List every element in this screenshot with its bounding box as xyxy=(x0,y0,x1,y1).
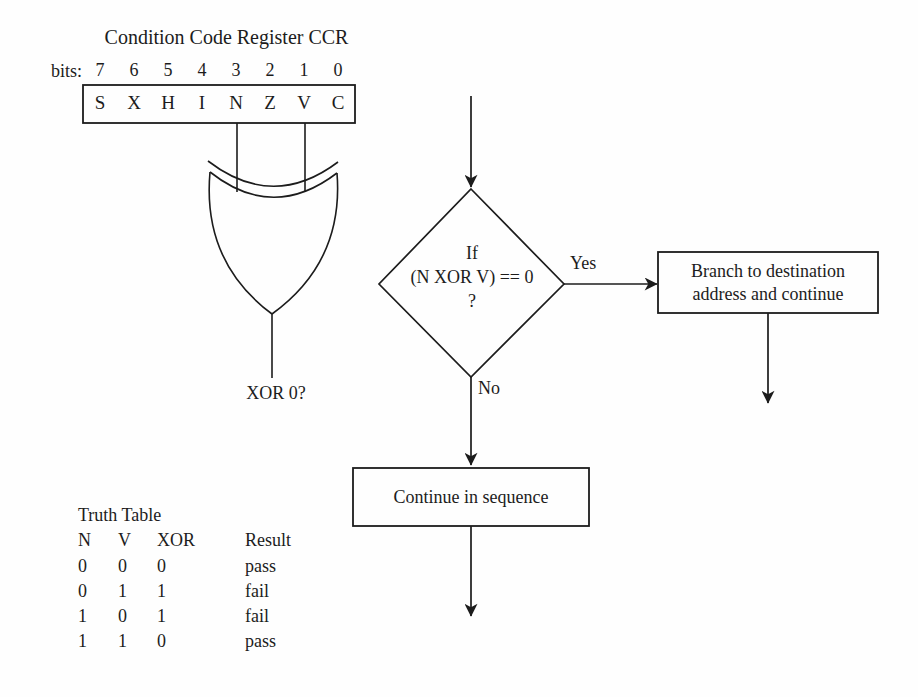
flag-cell-s: S xyxy=(83,92,117,114)
decision-text: If (N XOR V) == 0 ? xyxy=(379,241,565,313)
xor-gate-icon xyxy=(208,161,338,378)
tt-cell: 0 xyxy=(118,604,157,629)
tt-header-n: N xyxy=(78,528,118,553)
decision-line-1: If xyxy=(379,241,565,265)
tt-cell: 1 xyxy=(78,604,118,629)
flag-cell-z: Z xyxy=(253,92,287,114)
no-label: No xyxy=(478,378,500,400)
bit-number-3: 3 xyxy=(219,60,253,81)
yes-label: Yes xyxy=(570,253,596,275)
tt-cell: 1 xyxy=(118,629,157,654)
branch-box-line-1: Branch to destination xyxy=(691,260,845,283)
tt-cell: fail xyxy=(245,604,291,629)
tt-cell: 1 xyxy=(118,579,157,604)
tt-cell: pass xyxy=(245,629,291,654)
bits-label: bits: xyxy=(36,61,82,83)
tt-cell: 0 xyxy=(78,554,118,579)
bit-number-5: 5 xyxy=(151,60,185,81)
tt-cell: 0 xyxy=(78,579,118,604)
tt-header-xor: XOR xyxy=(157,528,245,553)
tt-header-result: Result xyxy=(245,528,291,553)
flag-cell-v: V xyxy=(287,92,321,114)
branch-box-line-2: address and continue xyxy=(693,283,844,306)
truth-table-row: 0 0 0 pass xyxy=(78,554,291,579)
flag-cell-h: H xyxy=(151,92,185,114)
bit-number-7: 7 xyxy=(83,60,117,81)
tt-cell: 0 xyxy=(157,554,245,579)
bit-number-row: 7 6 5 4 3 2 1 0 xyxy=(83,60,355,81)
flag-cell-x: X xyxy=(117,92,151,114)
tt-cell: 1 xyxy=(157,579,245,604)
tt-header-v: V xyxy=(118,528,157,553)
tt-cell: 0 xyxy=(118,554,157,579)
bit-number-6: 6 xyxy=(117,60,151,81)
bit-number-4: 4 xyxy=(185,60,219,81)
tt-cell: 0 xyxy=(157,629,245,654)
register-flag-row: S X H I N Z V C xyxy=(83,92,355,114)
truth-table-row: 1 0 1 fail xyxy=(78,604,291,629)
branch-box-text: Branch to destination address and contin… xyxy=(658,252,878,313)
decision-line-3: ? xyxy=(379,289,565,313)
truth-table-row: 1 1 0 pass xyxy=(78,629,291,654)
truth-table: Truth Table N V XOR Result 0 0 0 pass 0 … xyxy=(78,503,291,655)
tt-cell: fail xyxy=(245,579,291,604)
xor-output-label: XOR 0? xyxy=(232,383,320,405)
decision-line-2: (N XOR V) == 0 xyxy=(379,265,565,289)
truth-table-header: N V XOR Result xyxy=(78,528,291,553)
register-title: Condition Code Register CCR xyxy=(80,25,373,49)
flag-cell-n: N xyxy=(219,92,253,114)
bit-number-0: 0 xyxy=(321,60,355,81)
continue-box-label: Continue in sequence xyxy=(394,486,549,509)
tt-cell: 1 xyxy=(78,629,118,654)
truth-table-title: Truth Table xyxy=(78,503,291,528)
bit-number-2: 2 xyxy=(253,60,287,81)
diagram-page: Condition Code Register CCR bits: 7 6 5 … xyxy=(0,0,918,697)
continue-box-text: Continue in sequence xyxy=(353,468,589,526)
bit-number-1: 1 xyxy=(287,60,321,81)
flag-cell-i: I xyxy=(185,92,219,114)
truth-table-row: 0 1 1 fail xyxy=(78,579,291,604)
flag-cell-c: C xyxy=(321,92,355,114)
tt-cell: 1 xyxy=(157,604,245,629)
tt-cell: pass xyxy=(245,554,291,579)
